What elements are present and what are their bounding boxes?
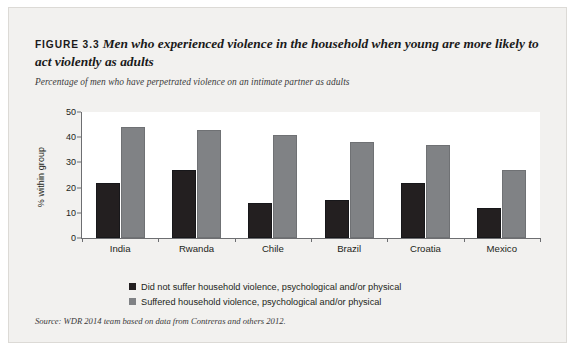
bar [273,135,297,238]
x-axis-category-label: Rwanda [158,243,234,254]
figure-title-block: FIGURE 3.3 Men who experienced violence … [35,35,540,71]
bar [197,130,221,238]
bar-group [464,112,540,238]
figure-number-label: FIGURE 3.3 [35,39,99,50]
axis-area: 01020304050 IndiaRwandaChileBrazilCroati… [57,112,540,262]
x-axis-tick-mark [158,238,159,242]
figure-header: FIGURE 3.3 Men who experienced violence … [35,35,540,87]
x-axis-tick-mark [311,238,312,242]
y-axis-tick-label: 20 [66,183,76,193]
legend-swatch-icon [129,283,136,290]
page-title: Men who experienced violence in the hous… [35,36,539,69]
x-axis-category-label: Brazil [311,243,387,254]
x-axis-tick-mark [387,238,388,242]
legend-label: Did not suffer household violence, psych… [141,282,401,292]
x-axis-tick-mark [540,238,541,242]
bar-group [311,112,387,238]
bars-container [82,112,540,238]
chart-plot-area: % within group 01020304050 IndiaRwandaCh… [35,112,540,262]
y-axis-tick-label: 50 [66,107,76,117]
bar [96,183,120,238]
bar [325,200,349,238]
bar [248,203,272,238]
y-axis-ticks: 01020304050 [57,112,81,238]
figure-source: Source: WDR 2014 team based on data from… [35,316,286,326]
figure-panel: FIGURE 3.3 Men who experienced violence … [8,7,567,343]
y-axis-tick-label: 10 [66,208,76,218]
bar-group [82,112,158,238]
y-axis-tick-label: 30 [66,157,76,167]
legend-item: Did not suffer household violence, psych… [129,280,469,293]
bar [401,183,425,238]
bar [426,145,450,238]
bar [477,208,501,238]
bar-group [235,112,311,238]
y-axis-tick-label: 40 [66,132,76,142]
x-axis-category-label: Croatia [387,243,463,254]
figure-subtitle: Percentage of men who have perpetrated v… [35,77,540,87]
chart-legend: Did not suffer household violence, psych… [129,280,469,310]
bar [502,170,526,238]
bar-group [158,112,234,238]
bar [172,170,196,238]
x-axis-category-label: India [82,243,158,254]
bar-group [387,112,463,238]
x-axis-tick-mark [464,238,465,242]
bar [121,127,145,238]
x-axis-category-label: Mexico [464,243,540,254]
x-axis-category-label: Chile [235,243,311,254]
x-axis-tick-mark [82,238,83,242]
y-axis-title: % within group [34,102,48,252]
x-axis-tick-mark [235,238,236,242]
bar [350,142,374,238]
legend-item: Suffered household violence, psychologic… [129,295,469,308]
legend-label: Suffered household violence, psychologic… [141,297,381,307]
legend-swatch-icon [129,298,136,305]
y-axis-tick-label: 0 [71,233,76,243]
x-axis-labels: IndiaRwandaChileBrazilCroatiaMexico [82,243,540,254]
